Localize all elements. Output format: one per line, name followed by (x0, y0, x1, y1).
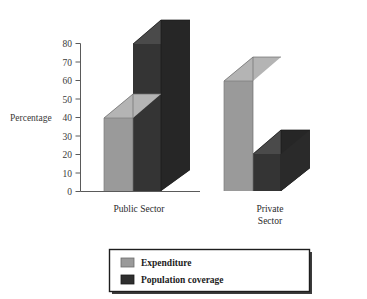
bar-top-face (224, 57, 281, 81)
bar-front-face (104, 118, 133, 191)
y-tick-label-20: 20 (63, 150, 73, 160)
legend: Expenditure Population coverage (110, 250, 313, 295)
bar-chart-figure: 80 70 60 50 40 30 20 10 0 Percentage (0, 0, 367, 299)
y-tick-label-50: 50 (63, 95, 73, 105)
y-tick-label-30: 30 (63, 132, 73, 142)
bar-front-face (133, 44, 161, 191)
y-tick-label-40: 40 (63, 113, 73, 123)
bar-front-face (224, 81, 253, 191)
category-label-public-sector: Public Sector (114, 204, 166, 214)
category-labels: Public Sector Private Sector (114, 204, 284, 226)
legend-label-expenditure: Expenditure (141, 258, 192, 268)
y-tick-label-70: 70 (63, 58, 73, 68)
legend-swatch-expenditure (121, 258, 134, 267)
category-label-private-sector-line1: Private (257, 204, 284, 214)
legend-label-population-coverage: Population coverage (141, 275, 224, 285)
y-tick-label-10: 10 (63, 169, 73, 179)
y-tick-label-60: 60 (63, 76, 73, 86)
y-axis-title: Percentage (10, 113, 52, 123)
legend-box (110, 250, 310, 292)
legend-swatch-population-coverage (121, 275, 134, 284)
y-tick-label-0: 0 (67, 187, 72, 197)
category-label-private-sector-line2: Sector (258, 216, 283, 226)
y-axis: 80 70 60 50 40 30 20 10 0 Percentage (10, 39, 81, 197)
legend-entry-expenditure[interactable]: Expenditure (121, 258, 192, 268)
chart-canvas: 80 70 60 50 40 30 20 10 0 Percentage (0, 0, 367, 299)
bar-front-face (253, 154, 281, 191)
bar-side-face (161, 20, 190, 191)
y-tick-label-80: 80 (63, 39, 73, 49)
